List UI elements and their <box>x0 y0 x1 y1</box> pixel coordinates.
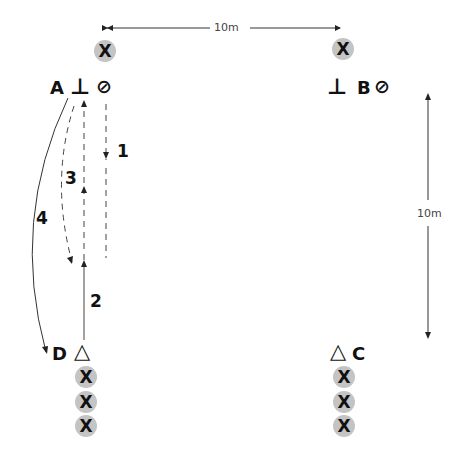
triangle-marker-icon: △ <box>74 341 90 362</box>
station-d-label: D <box>52 345 67 363</box>
player-bottom-left-1: X <box>75 366 97 388</box>
player-bottom-right-3: X <box>333 415 355 437</box>
no-entry-circle-icon: ⊘ <box>374 77 390 96</box>
station-c-label: C <box>352 345 365 363</box>
player-bottom-right-1: X <box>333 366 355 388</box>
station-a-label: A <box>50 79 64 97</box>
vertical-measure-label: 10m <box>414 208 445 219</box>
movement-1-label: 1 <box>117 143 129 160</box>
player-top-left: X <box>94 40 116 62</box>
player-top-right: X <box>332 38 354 60</box>
player-bottom-left-2: X <box>75 391 97 413</box>
player-bottom-right-2: X <box>333 391 355 413</box>
player-bottom-left-3: X <box>75 415 97 437</box>
movement-3-label: 3 <box>65 170 77 187</box>
drill-lines <box>0 0 462 460</box>
no-entry-circle-icon: ⊘ <box>96 77 112 96</box>
station-b-label: B <box>357 79 371 97</box>
horizontal-measure-label: 10m <box>211 22 242 33</box>
triangle-marker-icon: △ <box>330 341 346 362</box>
start-marker-icon: ⊥ <box>327 76 347 98</box>
start-marker-icon: ⊥ <box>70 76 90 98</box>
movement-2-label: 2 <box>90 293 102 310</box>
movement-4-label: 4 <box>36 210 48 227</box>
